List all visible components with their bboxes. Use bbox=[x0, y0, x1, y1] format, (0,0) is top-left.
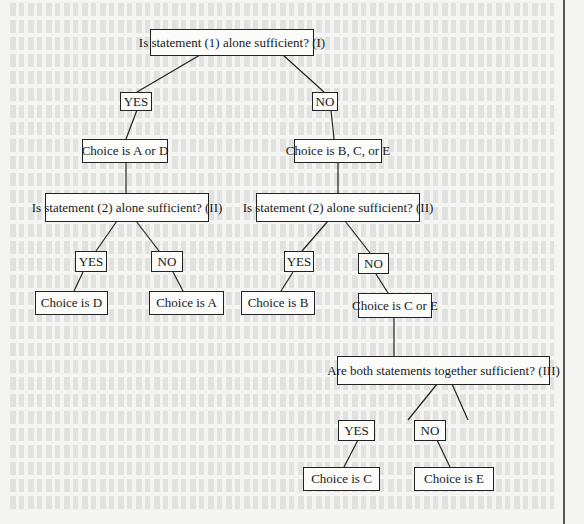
no-label: NO bbox=[364, 256, 383, 272]
choice-a-or-d-box: Choice is A or D bbox=[82, 139, 168, 163]
question-3-box: Are both statements together sufficient?… bbox=[337, 356, 550, 385]
choice-a-or-d-label: Choice is A or D bbox=[82, 143, 169, 159]
q2-left-yes-box: YES bbox=[75, 251, 107, 272]
q3-no-box: NO bbox=[414, 420, 446, 441]
yes-label: YES bbox=[124, 94, 149, 110]
question-2-left-label: Is statement (2) alone sufficient? (II) bbox=[32, 200, 223, 216]
choice-e-box: Choice is E bbox=[414, 467, 494, 491]
choice-b-c-or-e-label: Choice is B, C, or E bbox=[286, 143, 390, 159]
choice-b-label: Choice is B bbox=[248, 295, 309, 311]
q2-left-no-box: NO bbox=[151, 251, 183, 272]
q1-yes-box: YES bbox=[120, 92, 152, 111]
choice-c-label: Choice is C bbox=[311, 471, 372, 487]
q2-right-no-box: NO bbox=[358, 253, 389, 274]
no-label: NO bbox=[158, 254, 177, 270]
choice-c-or-e-box: Choice is C or E bbox=[358, 293, 432, 318]
choice-e-label: Choice is E bbox=[424, 471, 484, 487]
no-label: NO bbox=[316, 94, 335, 110]
choice-b-box: Choice is B bbox=[241, 291, 315, 315]
choice-d-box: Choice is D bbox=[35, 291, 108, 315]
q3-yes-box: YES bbox=[338, 420, 375, 441]
scanned-page: Is statement (1) alone sufficient? (I) Y… bbox=[0, 0, 584, 524]
question-2-left-box: Is statement (2) alone sufficient? (II) bbox=[45, 193, 209, 222]
choice-d-label: Choice is D bbox=[41, 295, 102, 311]
choice-b-c-or-e-box: Choice is B, C, or E bbox=[294, 139, 382, 163]
q1-no-box: NO bbox=[312, 92, 338, 111]
question-3-label: Are both statements together sufficient?… bbox=[327, 363, 560, 379]
no-label: NO bbox=[421, 423, 440, 439]
question-1-label: Is statement (1) alone sufficient? (I) bbox=[139, 35, 325, 51]
yes-label: YES bbox=[287, 254, 312, 270]
choice-c-box: Choice is C bbox=[303, 467, 380, 491]
yes-label: YES bbox=[344, 423, 369, 439]
q2-right-yes-box: YES bbox=[284, 251, 314, 272]
choice-c-or-e-label: Choice is C or E bbox=[352, 298, 438, 314]
question-2-right-box: Is statement (2) alone sufficient? (II) bbox=[256, 193, 420, 222]
question-2-right-label: Is statement (2) alone sufficient? (II) bbox=[243, 200, 434, 216]
choice-a-label: Choice is A bbox=[156, 295, 217, 311]
question-1-box: Is statement (1) alone sufficient? (I) bbox=[150, 29, 314, 56]
yes-label: YES bbox=[79, 254, 104, 270]
choice-a-box: Choice is A bbox=[149, 291, 224, 315]
